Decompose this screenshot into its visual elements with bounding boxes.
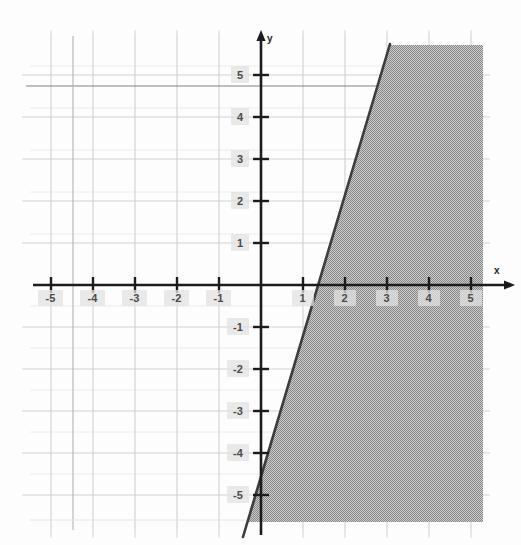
x-tick-label: 4 (425, 292, 432, 304)
x-tick-label: 3 (383, 292, 389, 304)
x-tick-label: -3 (130, 292, 140, 304)
x-axis-label: x (494, 265, 500, 276)
x-tick-label: -2 (172, 292, 182, 304)
x-tick-label: 2 (341, 292, 347, 304)
x-tick-label: -5 (46, 292, 56, 304)
y-tick-label: 5 (237, 69, 243, 81)
y-tick-label: -4 (233, 447, 244, 459)
y-axis-label: y (267, 33, 273, 44)
y-tick-label: 3 (237, 153, 243, 165)
y-tick-label: -2 (233, 363, 243, 375)
x-tick-label: -1 (214, 292, 224, 304)
y-tick-label: 1 (237, 237, 243, 249)
x-tick-label: 1 (299, 292, 305, 304)
y-tick-label: -5 (233, 489, 243, 501)
y-tick-label: 4 (237, 111, 244, 123)
x-tick-label: -4 (88, 292, 99, 304)
y-tick-label: -3 (233, 405, 243, 417)
y-tick-label: 2 (237, 195, 243, 207)
graph-canvas: -5 -4 -3 -2 -1 1 2 3 4 5 (0, 0, 521, 545)
y-tick-label: -1 (233, 321, 243, 333)
coordinate-plane-figure: -5 -4 -3 -2 -1 1 2 3 4 5 (0, 0, 521, 545)
x-tick-label: 5 (467, 292, 473, 304)
